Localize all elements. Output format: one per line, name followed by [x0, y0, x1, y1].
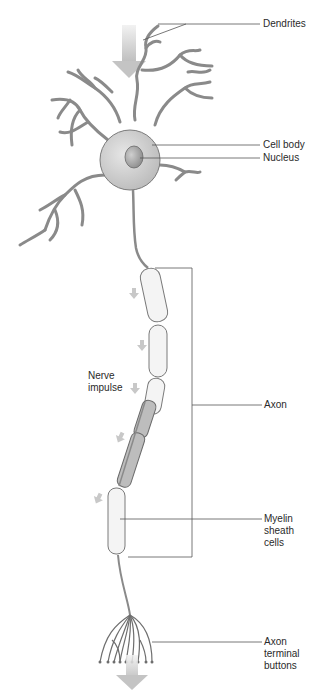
neuron-diagram [0, 0, 316, 698]
axon-terminals [100, 615, 152, 662]
myelin-cutaway [116, 399, 158, 489]
axon-fiber [133, 190, 148, 268]
label-axon: Axon [264, 399, 287, 411]
nucleus [125, 146, 143, 168]
label-myelin-sheath-cells: Myelin sheath cells [264, 513, 294, 549]
label-cell-body: Cell body [263, 139, 305, 151]
myelin-sheaths [108, 267, 169, 554]
leader-lines [120, 24, 262, 642]
label-nerve-impulse: Nerve impulse [88, 370, 122, 394]
label-axon-terminal-buttons: Axon terminal buttons [264, 636, 300, 672]
label-dendrites: Dendrites [263, 18, 306, 30]
label-nucleus: Nucleus [263, 152, 299, 164]
